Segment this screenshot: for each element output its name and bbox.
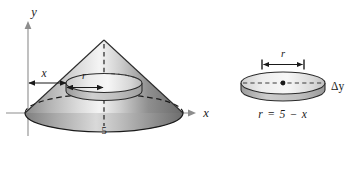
dimension-x-label: x bbox=[40, 67, 47, 79]
cone-disk-figure: x r 5 y x r bbox=[0, 0, 360, 169]
x-axis-arrowhead bbox=[188, 110, 196, 117]
x-axis-tick-label-5: 5 bbox=[101, 125, 106, 136]
detail-disk-equation-label: r = 5 − x bbox=[258, 108, 308, 120]
detail-disk-radius-label: r bbox=[281, 48, 286, 59]
figure-container: x r 5 y x r bbox=[0, 0, 360, 169]
y-axis-arrowhead bbox=[25, 21, 32, 29]
y-axis-label: y bbox=[29, 5, 37, 19]
slab-top-face bbox=[66, 74, 142, 93]
detail-disk-thickness-label: Δy bbox=[331, 80, 344, 93]
detail-disk-center-dot bbox=[281, 81, 286, 86]
x-axis-label: x bbox=[202, 106, 209, 120]
detail-disk: r Δy r = 5 − x bbox=[241, 48, 344, 120]
detail-disk-radius-dimension: r bbox=[262, 48, 304, 70]
